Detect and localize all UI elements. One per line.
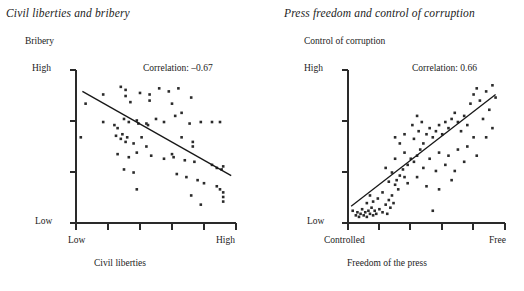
data-point	[188, 122, 191, 125]
data-point	[113, 124, 116, 127]
data-point	[447, 154, 450, 157]
data-point	[185, 176, 188, 179]
data-point	[145, 145, 148, 148]
data-point	[384, 203, 387, 206]
data-point	[463, 161, 466, 164]
data-point	[394, 136, 397, 139]
data-point	[148, 93, 151, 96]
data-point	[413, 138, 416, 141]
chart-panel-civil-liberties: Civil liberties and bribery Bribery High…	[0, 0, 262, 291]
data-point	[148, 99, 151, 102]
data-point	[171, 102, 174, 105]
data-point	[115, 134, 118, 137]
data-point	[123, 168, 126, 171]
y-tick-label-low: Low	[35, 216, 52, 226]
data-point	[399, 174, 402, 177]
data-point	[168, 90, 171, 93]
data-point	[219, 188, 222, 191]
data-point	[377, 197, 380, 200]
data-point	[370, 206, 373, 209]
data-point	[190, 194, 193, 197]
data-point	[466, 145, 469, 148]
data-point	[132, 142, 135, 145]
data-point	[406, 182, 409, 185]
data-point	[120, 138, 123, 141]
data-point	[388, 199, 391, 202]
data-point	[140, 136, 143, 139]
x-tick-label-right: High	[216, 235, 235, 245]
data-point	[180, 136, 183, 139]
data-point	[364, 211, 367, 214]
data-point	[475, 87, 478, 90]
data-point	[485, 136, 488, 139]
data-point	[172, 156, 175, 159]
data-point	[150, 154, 153, 157]
data-point	[124, 89, 127, 92]
data-point	[222, 200, 225, 203]
data-point	[435, 130, 438, 133]
data-point	[384, 167, 387, 170]
data-point	[444, 164, 447, 167]
data-point	[136, 188, 139, 191]
data-point	[155, 118, 158, 121]
data-point	[428, 127, 431, 130]
data-point	[403, 176, 406, 179]
data-point	[180, 112, 183, 115]
data-point	[475, 154, 478, 157]
correlation-annotation: Correlation: –0.67	[143, 63, 213, 73]
data-point	[422, 167, 425, 170]
data-points	[80, 86, 225, 206]
data-point	[438, 124, 441, 127]
data-point	[466, 124, 469, 127]
x-tick-label-right: Free	[489, 235, 506, 245]
data-point	[386, 213, 389, 216]
data-point	[362, 214, 365, 217]
data-point	[394, 183, 397, 186]
data-point	[124, 95, 127, 98]
data-point	[358, 216, 361, 219]
data-point	[420, 121, 423, 124]
data-point	[200, 121, 203, 124]
data-point	[136, 151, 139, 154]
data-point	[174, 115, 177, 118]
data-point	[417, 130, 420, 133]
data-point	[369, 213, 372, 216]
data-point	[411, 124, 414, 127]
data-point	[395, 179, 398, 182]
data-point	[147, 124, 150, 127]
data-point	[419, 148, 422, 151]
data-point	[216, 185, 219, 188]
data-point	[129, 101, 132, 104]
data-point	[192, 141, 195, 144]
data-point	[128, 156, 131, 159]
data-point	[378, 208, 381, 211]
data-point	[431, 209, 434, 212]
data-point	[222, 191, 225, 194]
data-point	[397, 188, 400, 191]
data-point	[102, 93, 105, 96]
trend-line	[82, 91, 231, 175]
y-tick-label-high: High	[32, 63, 51, 73]
data-point	[391, 194, 394, 197]
data-point	[472, 136, 475, 139]
data-point	[438, 151, 441, 154]
data-point	[447, 127, 450, 130]
data-point	[444, 121, 447, 124]
data-point	[366, 202, 369, 205]
x-axis-title: Freedom of the press	[347, 258, 427, 268]
data-point	[211, 121, 214, 124]
chart-panel-press-freedom: Press freedom and control of corruption …	[262, 0, 524, 291]
data-point	[435, 170, 438, 173]
data-point	[375, 213, 378, 216]
data-point	[450, 118, 453, 121]
data-point	[132, 171, 135, 174]
data-point	[367, 209, 370, 212]
data-point	[177, 87, 180, 90]
data-point	[389, 206, 392, 209]
data-point	[381, 211, 384, 214]
data-point	[425, 133, 428, 136]
data-point	[219, 121, 222, 124]
data-point	[428, 157, 431, 160]
data-point	[200, 203, 203, 206]
data-point	[457, 148, 460, 151]
